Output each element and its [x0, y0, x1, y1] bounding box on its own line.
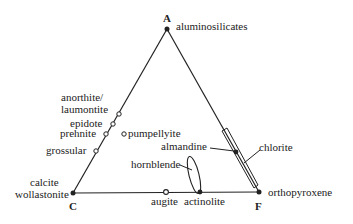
label-grossular: grossular: [46, 144, 87, 156]
point-prehnite: [104, 132, 108, 136]
point-augite: [164, 190, 169, 195]
label-wollastonite: wollastonite: [15, 188, 69, 200]
point-a: [165, 27, 170, 32]
label-actinolite: actinolite: [184, 195, 225, 207]
label-calcite: calcite: [30, 176, 59, 188]
label-almandine: almandine: [161, 140, 207, 152]
edge-af: [167, 29, 259, 192]
point-grossular: [94, 149, 98, 153]
point-pumpellyite: [122, 132, 126, 136]
hornblende-leader: [180, 165, 192, 170]
point-f: [257, 190, 262, 195]
point-epidote: [111, 122, 115, 126]
point-c: [71, 191, 76, 196]
vertex-f-label: F: [255, 200, 262, 212]
ternary-diagram: A C F aluminosilicates calcite wollaston…: [0, 0, 353, 224]
label-hornblende: hornblende: [131, 158, 181, 170]
label-anorthite: anorthite/: [61, 91, 104, 103]
vertex-a-label: A: [163, 12, 171, 24]
label-augite: augite: [151, 195, 178, 207]
label-aluminosilicates: aluminosilicates: [176, 20, 247, 32]
label-pumpellyite: pumpellyite: [128, 127, 181, 139]
label-chlorite: chlorite: [259, 141, 293, 153]
point-anorthite: [117, 112, 121, 116]
hornblende-field: [185, 155, 204, 194]
chlorite-leader: [244, 150, 260, 163]
point-almandine: [234, 150, 239, 155]
point-actinolite: [198, 190, 203, 195]
vertex-c-label: C: [69, 200, 77, 212]
label-prehnite: prehnite: [60, 127, 96, 139]
label-laumontite: laumontite: [61, 103, 108, 115]
almandine-leader: [210, 148, 234, 151]
label-orthopyroxene: orthopyroxene: [268, 186, 332, 198]
